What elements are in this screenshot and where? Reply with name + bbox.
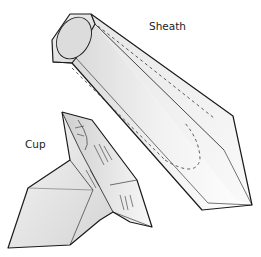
cup-label: Cup: [25, 138, 46, 150]
sheath-and-cup-diagram: [0, 0, 261, 257]
sheath-label: Sheath: [149, 20, 186, 32]
cup: [8, 112, 152, 248]
